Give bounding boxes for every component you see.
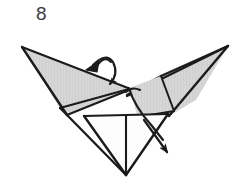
origami-step-figure: 8 (0, 0, 250, 193)
origami-diagram-svg (0, 0, 250, 193)
body-group (67, 114, 168, 175)
